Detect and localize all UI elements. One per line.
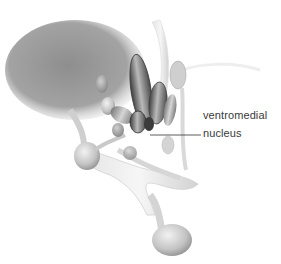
- center-ball: [123, 146, 137, 160]
- small-blob-left: [112, 123, 124, 137]
- figure-canvas: ventromedial nucleus: [0, 0, 281, 264]
- ventromedial-dark-core: [144, 117, 154, 131]
- lower-right-nucleus: [162, 136, 174, 154]
- left-connector: [95, 135, 125, 150]
- right-oval-stalk: [182, 88, 186, 170]
- ventromedial-nucleus: [130, 111, 146, 133]
- small-nucleus-on-mass: [96, 75, 108, 93]
- left-ball: [74, 142, 100, 170]
- label-ventromedial: ventromedial: [203, 109, 267, 121]
- right-fiber: [183, 64, 260, 70]
- label-nucleus: nucleus: [203, 127, 242, 139]
- thalamus-mass: [5, 20, 145, 120]
- pituitary-gland: [152, 224, 192, 256]
- right-oval: [170, 61, 186, 89]
